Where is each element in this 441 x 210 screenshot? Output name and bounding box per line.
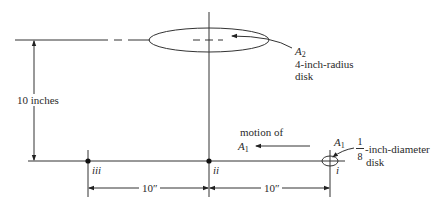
diagram-canvas xyxy=(0,0,441,210)
a1-label: A1 xyxy=(334,136,345,152)
fraction-bar xyxy=(356,148,364,149)
point-ii-label: ii xyxy=(213,164,219,176)
height-dimension-label: 10 inches xyxy=(17,94,59,106)
a1-description: -inch-diameter xyxy=(365,143,430,155)
a2-name: A xyxy=(295,45,302,57)
a1-fraction-numerator: 1 xyxy=(356,137,364,147)
a2-description-line2: disk xyxy=(295,70,313,82)
a1-fraction-denominator: 8 xyxy=(356,152,364,162)
point-iii-label: iii xyxy=(92,164,101,176)
point-i-label: i xyxy=(336,164,339,176)
a2-description: 4-inch-radius xyxy=(295,58,354,70)
dimension-left-label: 10″ xyxy=(142,182,158,194)
point-iii-dot xyxy=(85,158,90,163)
motion-a1-label: A1 xyxy=(238,140,249,156)
point-ii-dot xyxy=(206,158,211,163)
motion-label: motion of xyxy=(240,126,283,138)
dimension-right-label: 10″ xyxy=(264,182,280,194)
a1-description-line2: disk xyxy=(366,156,384,168)
